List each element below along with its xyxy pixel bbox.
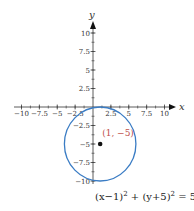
equation: (x−1)2 + (y+5)2 = 52 [95,190,194,202]
x-tick-label: 2.5 [105,110,116,118]
y-tick-label: 2.5 [79,85,90,93]
x-tick-label: −10 [14,110,29,118]
x-tick-label: −5 [52,110,62,118]
x-tick-label: 10 [160,110,169,118]
x-tick-label: 7.5 [141,110,152,118]
y-tick-label: 7.5 [79,48,90,56]
y-tick-label: 10 [81,30,90,38]
y-tick-label: −5 [80,141,90,149]
y-axis-arrow [90,21,96,29]
y-axis-label: y [88,9,95,20]
x-axis-label: x [179,101,185,112]
y-tick-label: −2.5 [73,122,90,130]
x-axis-arrow [169,104,176,110]
marks: (1, −5) [64,107,135,181]
chart: xy −10−7.5−5−2.52.557.510107.552.5−2.5−5… [0,0,194,211]
axes: xy [14,9,185,184]
y-tick-label: 5 [86,67,90,75]
center-point-label: (1, −5) [102,128,134,138]
y-tick-label: −7.5 [73,159,90,167]
x-tick-label: −7.5 [31,110,48,118]
x-tick-label: 5 [127,110,131,118]
center-point [98,142,103,147]
